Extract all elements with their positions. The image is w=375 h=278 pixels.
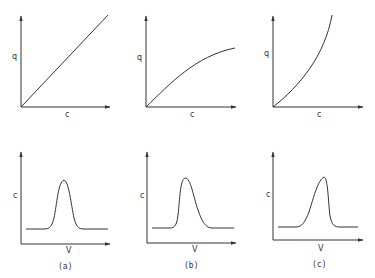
x-label: c [65, 110, 69, 119]
y-label: c [140, 191, 144, 200]
elution-curve [152, 178, 234, 228]
y-label: q [137, 53, 142, 62]
y-label: c [13, 191, 17, 200]
y-label: q [264, 49, 269, 58]
panel-a-elution: c V (a) [13, 152, 110, 271]
elution-curve [26, 180, 108, 229]
isotherm-curve [146, 48, 235, 107]
panel-c-elution: c V (c) [266, 152, 363, 269]
x-label: V [318, 244, 324, 253]
elution-curve [278, 177, 358, 227]
y-label: q [12, 52, 17, 61]
panel-caption: (c) [312, 260, 326, 269]
panel-c-isotherm: q c [264, 15, 363, 119]
panel-a-isotherm: q c [12, 15, 110, 119]
isotherm-curve [273, 15, 332, 107]
y-label: c [266, 190, 270, 199]
x-label: V [66, 246, 72, 255]
x-label: V [192, 245, 198, 254]
x-label: c [317, 110, 321, 119]
isotherm-elution-figure: q c c V (a) q c c V (b) q c c [0, 0, 375, 278]
isotherm-curve [21, 15, 108, 107]
x-label: c [190, 110, 194, 119]
panel-b-isotherm: q c [137, 16, 236, 119]
panel-caption: (b) [184, 261, 198, 270]
panel-caption: (a) [58, 262, 72, 271]
panel-b-elution: c V (b) [140, 152, 236, 270]
